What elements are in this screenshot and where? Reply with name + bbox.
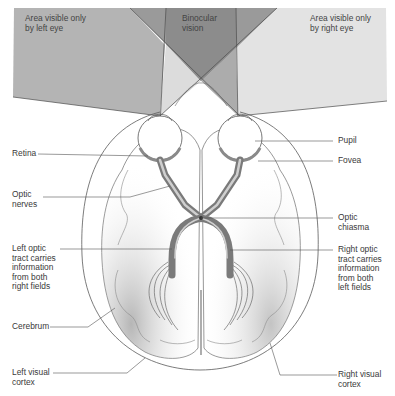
- label-cerebrum: Cerebrum: [12, 322, 49, 332]
- label-optic-nerves: Optic nerves: [12, 190, 37, 209]
- label-left-visual-cortex: Left visual cortex: [12, 368, 50, 387]
- label-fovea: Fovea: [338, 156, 361, 166]
- visual-pathway-diagram: Area visible only by left eye Binocular …: [0, 0, 395, 396]
- diagram-graphics: [0, 0, 395, 396]
- label-left-optic-tract: Left optic tract carries information fro…: [12, 244, 56, 292]
- label-pupil: Pupil: [338, 136, 357, 146]
- brain: [102, 128, 301, 358]
- label-optic-chiasma: Optic chiasma: [338, 213, 369, 232]
- label-right-visual-cortex: Right visual cortex: [338, 370, 381, 389]
- label-right-eye-field: Area visible only by right eye: [310, 14, 371, 33]
- label-left-eye-field: Area visible only by left eye: [25, 14, 86, 33]
- label-right-optic-tract: Right optic tract carries information fr…: [338, 245, 382, 293]
- label-binocular-vision: Binocular vision: [182, 14, 217, 33]
- label-retina: Retina: [12, 149, 36, 159]
